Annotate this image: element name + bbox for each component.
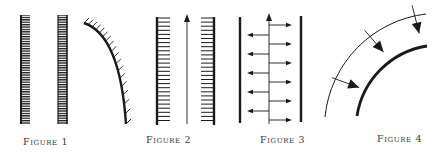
figure-2-channel (157, 14, 214, 125)
hatched-wall-right (201, 17, 214, 125)
figure-1-strips (21, 15, 67, 124)
figure-1-curved-wall (84, 18, 131, 124)
caption-figure-1: Figure 1 (23, 136, 68, 147)
flow-arrow-up (184, 14, 190, 124)
horizontal-arrows (247, 23, 292, 123)
hatched-wall-left (157, 17, 170, 125)
hatched-strip-left (21, 15, 30, 124)
inner-arc (357, 46, 427, 116)
figure-3-walls (240, 13, 301, 124)
caption-figure-2: Figure 2 (146, 134, 191, 145)
hatched-strip-right (58, 15, 67, 124)
caption-figure-3: Figure 3 (260, 134, 305, 145)
central-arrow-up (266, 13, 272, 124)
outer-arc (325, 14, 426, 117)
caption-figure-4: Figure 4 (377, 133, 422, 144)
figure-4-arcs (325, 5, 427, 117)
